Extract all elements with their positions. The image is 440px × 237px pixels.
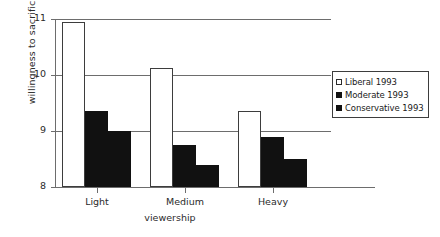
legend-label: Liberal 1993 <box>345 77 397 87</box>
bar-medium-moderate <box>173 145 196 187</box>
y-tick-label: 9 <box>10 124 46 135</box>
plot-area <box>56 19 331 187</box>
x-tick-label-heavy: Heavy <box>233 196 313 207</box>
y-tick-label: 10 <box>10 68 46 79</box>
legend-swatch-icon <box>336 79 342 85</box>
x-tick-label-light: Light <box>57 196 137 207</box>
legend-item: Liberal 1993 <box>336 75 424 88</box>
bar-light-liberal <box>62 22 85 187</box>
legend-label: Moderate 1993 <box>345 90 408 100</box>
x-tick-mark <box>97 187 98 193</box>
bar-light-moderate <box>85 111 108 187</box>
bar-medium-conservative <box>196 165 219 187</box>
bar-light-conservative <box>108 131 131 187</box>
bar-chart: willingness to sacrifice 891011 LightMed… <box>0 0 440 237</box>
x-axis-title: viewership <box>0 212 340 223</box>
gridline <box>56 19 331 20</box>
gridline <box>56 75 331 76</box>
legend: Liberal 1993Moderate 1993Conservative 19… <box>332 71 429 118</box>
bar-medium-liberal <box>150 68 173 187</box>
x-tick-mark <box>185 187 186 193</box>
bar-heavy-moderate <box>261 137 284 187</box>
legend-item: Moderate 1993 <box>336 88 424 101</box>
y-tick-mark <box>51 187 56 188</box>
legend-item: Conservative 1993 <box>336 101 424 114</box>
y-tick-label: 8 <box>10 180 46 191</box>
bar-heavy-conservative <box>284 159 307 187</box>
legend-swatch-icon <box>336 105 342 111</box>
legend-swatch-icon <box>336 92 342 98</box>
x-tick-mark <box>273 187 274 193</box>
x-axis-line <box>55 187 375 188</box>
legend-label: Conservative 1993 <box>345 103 424 113</box>
x-tick-label-medium: Medium <box>145 196 225 207</box>
y-tick-label: 11 <box>10 12 46 23</box>
bar-heavy-liberal <box>238 111 261 187</box>
